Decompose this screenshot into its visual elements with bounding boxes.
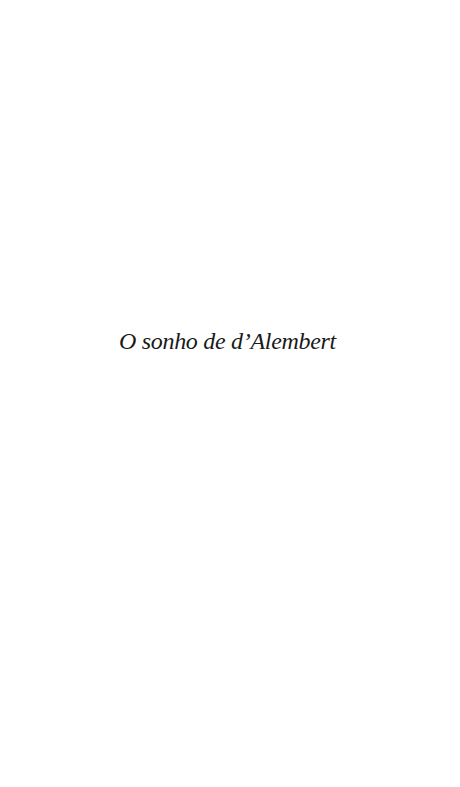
book-title: O sonho de d’Alembert xyxy=(119,327,336,355)
book-page: O sonho de d’Alembert xyxy=(0,0,460,787)
